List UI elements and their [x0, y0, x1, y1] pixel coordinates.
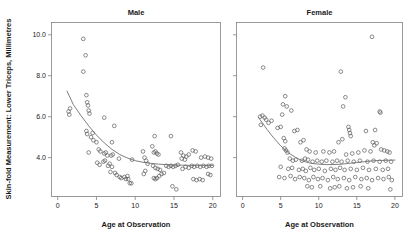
x-tick-label: 5: [279, 202, 283, 209]
data-point: [154, 166, 158, 170]
data-point: [329, 167, 333, 171]
x-tick-label: 10: [315, 202, 323, 209]
x-tick-label: 0: [241, 202, 245, 209]
data-point: [283, 176, 287, 180]
data-point: [346, 159, 350, 163]
data-point: [321, 176, 325, 180]
data-point: [367, 168, 371, 172]
x-tick-label: 0: [56, 202, 60, 209]
data-point: [289, 174, 293, 178]
data-point: [370, 178, 374, 182]
data-point: [379, 111, 383, 115]
data-point: [85, 93, 89, 97]
data-point: [316, 177, 320, 181]
data-point: [277, 175, 281, 179]
data-point: [337, 140, 341, 144]
data-point: [323, 169, 327, 173]
data-point: [206, 172, 210, 176]
data-point: [344, 95, 348, 99]
data-point: [347, 178, 351, 182]
data-point: [81, 70, 85, 74]
data-point: [317, 167, 321, 171]
data-point: [290, 166, 294, 170]
data-point: [95, 140, 99, 144]
data-point: [167, 165, 171, 169]
y-tick-label: 8.0: [36, 72, 46, 79]
x-tick-label: 15: [170, 202, 178, 209]
data-point: [325, 159, 329, 163]
x-tick-label: 15: [353, 202, 361, 209]
data-point: [345, 186, 349, 190]
data-point: [349, 167, 353, 171]
data-point: [360, 177, 364, 181]
data-point: [95, 161, 99, 165]
data-point: [160, 172, 164, 176]
data-point: [293, 177, 297, 181]
data-point: [84, 53, 88, 57]
data-point: [286, 167, 290, 171]
data-point: [283, 139, 287, 143]
x-tick-label: 10: [131, 202, 139, 209]
panel-male: Male051015204.06.08.010.0Age at Observat…: [32, 8, 220, 229]
data-point: [285, 105, 289, 109]
data-point: [98, 163, 102, 167]
data-point: [110, 165, 114, 169]
data-point: [356, 151, 360, 155]
data-point: [376, 176, 380, 180]
data-point: [387, 175, 391, 179]
data-point: [209, 173, 213, 177]
data-point: [350, 152, 354, 156]
data-point: [326, 178, 330, 182]
data-point: [373, 128, 377, 132]
data-point: [157, 174, 161, 178]
data-point: [312, 168, 316, 172]
data-point: [156, 167, 160, 171]
data-point: [302, 138, 306, 142]
data-point: [314, 151, 318, 155]
x-tick-label: 5: [95, 202, 99, 209]
y-tick-label: 6.0: [36, 113, 46, 120]
data-point: [169, 134, 173, 138]
data-point: [298, 175, 302, 179]
data-point: [382, 177, 386, 181]
data-point: [333, 185, 337, 189]
data-point: [328, 151, 332, 155]
data-point: [363, 149, 367, 153]
data-point: [374, 167, 378, 171]
x-tick-label: 20: [391, 202, 399, 209]
data-point: [331, 175, 335, 179]
scatter-plot-figure: Male051015204.06.08.010.0Age at Observat…: [0, 0, 416, 237]
data-point: [388, 151, 392, 155]
data-point: [261, 66, 265, 70]
data-point: [279, 165, 283, 169]
data-point: [310, 185, 314, 189]
data-point: [386, 167, 390, 171]
data-point: [320, 160, 324, 164]
data-point: [369, 150, 373, 154]
data-point: [334, 168, 338, 172]
data-point: [390, 178, 394, 182]
data-point: [280, 113, 284, 117]
y-axis-title: Skin-fold Measurement: Lower Triceps, Mi…: [4, 19, 13, 200]
data-point: [315, 159, 319, 163]
data-point: [261, 114, 265, 118]
data-point: [366, 186, 370, 190]
data-point: [335, 159, 339, 163]
data-point: [270, 119, 274, 123]
data-point: [381, 168, 385, 172]
data-point: [338, 166, 342, 170]
data-point: [81, 37, 85, 41]
data-point: [321, 150, 325, 154]
data-point: [309, 166, 313, 170]
data-point: [312, 175, 316, 179]
data-point: [110, 140, 114, 144]
data-point: [109, 170, 113, 174]
data-point: [388, 187, 392, 191]
data-point: [336, 177, 340, 181]
x-axis-title: Age at Observation: [102, 220, 171, 229]
data-point: [328, 186, 332, 190]
data-point: [339, 70, 343, 74]
y-tick-label: 4.0: [36, 154, 46, 161]
data-point: [353, 175, 357, 179]
data-point: [68, 107, 72, 111]
